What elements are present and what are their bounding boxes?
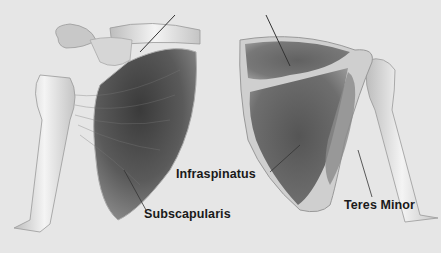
humerus-left [14, 75, 75, 232]
acromion [56, 24, 96, 48]
label-subscapularis: Subscapularis [144, 207, 231, 221]
leader-line-teres-minor [358, 150, 372, 197]
coracoid [90, 38, 132, 66]
posterior-view [240, 15, 438, 222]
anterior-view [14, 15, 200, 232]
subscapularis-muscle [94, 49, 197, 220]
label-teres-minor: Teres Minor [344, 198, 415, 212]
label-infraspinatus: Infraspinatus [176, 167, 256, 181]
